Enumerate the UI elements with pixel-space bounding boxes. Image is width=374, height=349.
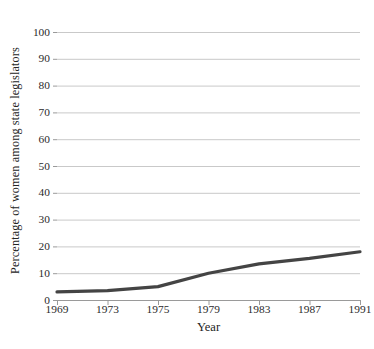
x-tick-label: 1991 [337,304,374,315]
gridlines-group [57,33,360,274]
x-tick-label: 1973 [85,304,131,315]
x-tick-label: 1969 [34,304,80,315]
y-tick-label: 10 [10,268,50,279]
y-tick-label: 40 [10,187,50,198]
x-tick-label: 1983 [236,304,282,315]
y-tick-label: 30 [10,214,50,225]
y-tick-marks-group [53,33,57,301]
x-tick-label: 1987 [287,304,333,315]
line-chart-figure: Percentage of women among state legislat… [0,0,374,349]
y-tick-label: 50 [10,161,50,172]
x-tick-label: 1979 [186,304,232,315]
y-tick-label: 90 [10,53,50,64]
y-tick-label: 80 [10,80,50,91]
y-tick-label: 60 [10,134,50,145]
chart-plot-area [0,0,374,349]
y-tick-label: 100 [10,27,50,38]
x-tick-label: 1975 [135,304,181,315]
y-tick-label: 20 [10,241,50,252]
x-axis-title: Year [57,320,360,335]
y-tick-label: 70 [10,107,50,118]
data-series-line [57,252,360,292]
